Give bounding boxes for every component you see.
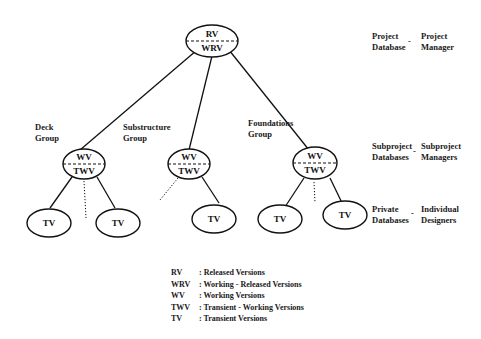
level-label-subproject-managers: Subproject Managers (421, 141, 461, 163)
group-bottom-label: TWV (304, 165, 326, 175)
root-top-label: RV (206, 29, 219, 39)
group-node-substructure: WV TWV (168, 149, 210, 179)
root-bottom-label: WRV (201, 43, 223, 53)
level-separator: - (411, 208, 414, 219)
group-label-substructure: Substructure Group (123, 122, 171, 144)
svg-text:TV: TV (208, 214, 221, 224)
edge-deck-tv2 (97, 177, 115, 208)
group-label-deck: Deck Group (35, 122, 59, 144)
edge-sub-tv3 (202, 177, 219, 203)
level-label-individual-designers: Individual Designers (421, 204, 459, 226)
group-label-foundations: Foundations Group (248, 118, 293, 140)
group-node-deck: WV TWV (63, 149, 105, 179)
svg-text:TV: TV (112, 218, 125, 228)
leaf-node: TV (96, 209, 140, 237)
group-top-label: WV (181, 152, 197, 162)
group-bottom-label: TWV (73, 166, 95, 176)
leaf-node: TV (323, 201, 367, 229)
dotted-edge-foundations (314, 182, 315, 203)
legend: RV : Released Versions WRV : Working - R… (171, 267, 304, 325)
svg-text:TV: TV (274, 214, 287, 224)
dotted-edge-substructure (160, 178, 178, 200)
legend-row: TV : Transient Versions (171, 313, 304, 325)
level-label-private-databases: Private Databases (372, 204, 409, 226)
svg-text:TV: TV (43, 218, 56, 228)
legend-row: WRV : Working - Released Versions (171, 279, 304, 291)
leaf-node: TV (192, 205, 236, 233)
legend-row: WV : Working Versions (171, 290, 304, 302)
root-node: RV WRV (186, 25, 238, 57)
group-node-foundations: WV TWV (293, 147, 337, 179)
leaf-node: TV (258, 205, 302, 233)
level-separator: - (413, 146, 416, 157)
level-separator: - (408, 36, 411, 47)
group-bottom-label: TWV (178, 166, 200, 176)
edge-root-substructure (189, 56, 212, 150)
level-label-subproject-databases: Subproject Databases (372, 141, 412, 163)
dotted-edge-deck (84, 181, 86, 218)
level-label-project-manager: Project Manager (421, 31, 454, 53)
level-label-project-database: Project Database (372, 31, 406, 53)
leaf-node: TV (27, 209, 71, 237)
group-top-label: WV (76, 152, 92, 162)
edge-deck-tv1 (50, 177, 72, 208)
legend-row: TWV : Transient - Working Versions (171, 302, 304, 314)
legend-row: RV : Released Versions (171, 267, 304, 279)
group-top-label: WV (307, 151, 323, 161)
svg-text:TV: TV (339, 210, 352, 220)
